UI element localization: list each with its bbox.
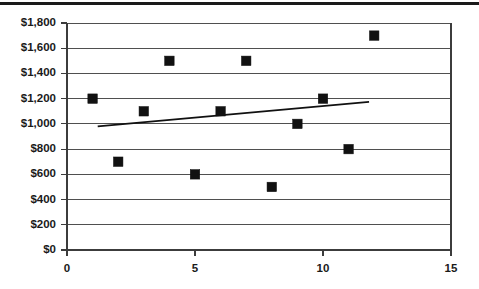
data-point-marker <box>139 107 149 117</box>
data-point-marker <box>190 170 200 180</box>
trendline <box>98 102 369 127</box>
data-point-marker <box>216 107 226 117</box>
data-point-marker <box>369 31 379 41</box>
data-point-marker <box>241 56 251 65</box>
x-tick-label-0: 0 <box>64 262 70 274</box>
gridlines-group <box>67 23 451 250</box>
data-point-marker <box>165 56 175 65</box>
y-tick-label-1800: $1,800 <box>21 16 56 28</box>
y-tick-label-1400: $1,400 <box>21 66 56 78</box>
data-markers-group <box>88 31 379 192</box>
data-point-marker <box>293 119 303 129</box>
x-tick-labels-group: 051015 <box>64 262 458 274</box>
y-tick-label-0: $0 <box>43 243 56 255</box>
y-tick-label-600: $600 <box>30 167 56 179</box>
data-point-marker <box>318 94 328 104</box>
x-tick-label-15: 15 <box>445 262 458 274</box>
y-tick-label-400: $400 <box>30 193 56 205</box>
data-point-marker <box>344 144 354 154</box>
y-tick-label-800: $800 <box>30 142 56 154</box>
y-tick-label-1000: $1,000 <box>21 117 56 129</box>
scatter-chart: $0$200$400$600$800$1,000$1,200$1,400$1,6… <box>0 0 479 289</box>
chart-figure: $0$200$400$600$800$1,000$1,200$1,400$1,6… <box>0 0 479 289</box>
x-tick-label-10: 10 <box>317 262 330 274</box>
y-tick-label-1200: $1,200 <box>21 92 56 104</box>
data-point-marker <box>88 94 98 104</box>
axes-group <box>61 23 451 256</box>
y-tick-labels-group: $0$200$400$600$800$1,000$1,200$1,400$1,6… <box>21 16 56 255</box>
data-point-marker <box>113 157 123 167</box>
data-point-marker <box>267 182 277 192</box>
x-tick-label-5: 5 <box>192 262 199 274</box>
y-tick-label-200: $200 <box>30 218 56 230</box>
y-tick-label-1600: $1,600 <box>21 41 56 53</box>
trendline-group <box>98 102 369 127</box>
